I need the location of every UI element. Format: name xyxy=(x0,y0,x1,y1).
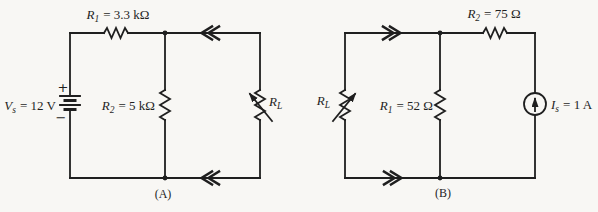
label-r2-b: R2= 75 Ω xyxy=(467,7,520,20)
label-rl-b: RL xyxy=(317,94,330,107)
label-is-b: Is= 1 A xyxy=(551,98,592,111)
junction-dot xyxy=(163,176,168,181)
label-rl-a: RL xyxy=(269,95,282,108)
battery-plus-sign: + xyxy=(58,80,69,95)
label-r2-a: R2= 5 kΩ xyxy=(102,99,155,112)
battery-minus-sign: − xyxy=(56,110,67,125)
schematic-canvas: + − xyxy=(0,0,598,212)
caption-a: (A) xyxy=(155,188,172,200)
label-r1-a: R1= 3.3 kΩ xyxy=(87,8,150,21)
paper-background xyxy=(0,0,598,212)
junction-dot xyxy=(438,176,443,181)
caption-b: (B) xyxy=(435,187,451,199)
circuit-figure: + − R1= 3.3 kΩ Vs= 12 V R2= 5 kΩ RL (A) … xyxy=(0,0,598,212)
junction-dot xyxy=(163,31,168,36)
label-r1-b: R1= 52 Ω xyxy=(380,99,433,112)
junction-dot xyxy=(438,31,443,36)
label-vs-a: Vs= 12 V xyxy=(4,99,56,112)
